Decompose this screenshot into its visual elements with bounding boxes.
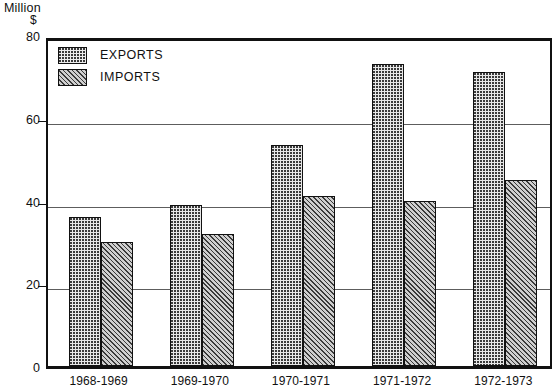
- x-axis-tick-label: 1969-1970: [171, 374, 229, 388]
- y-axis-tick-label: 80: [6, 30, 40, 44]
- bar-exports-1969-1970: [170, 205, 202, 366]
- y-axis-tick: [38, 204, 46, 205]
- x-axis-tick-label: 1972-1973: [474, 374, 532, 388]
- y-axis-tick-label: 20: [6, 278, 40, 292]
- bar-imports-1971-1972: [404, 201, 436, 367]
- bar-exports-1972-1973: [473, 72, 505, 366]
- legend-swatch-exports-icon: [58, 47, 87, 64]
- legend-label-imports: IMPORTS: [100, 70, 160, 84]
- y-axis-tick: [38, 286, 46, 287]
- x-axis-tick-label: 1968-1969: [69, 374, 127, 388]
- bar-imports-1969-1970: [202, 234, 234, 366]
- bars-layer: [48, 41, 550, 366]
- bar-imports-1968-1969: [101, 242, 133, 366]
- x-axis-tick-label: 1971-1972: [373, 374, 431, 388]
- y-axis-tick-label: 60: [6, 113, 40, 127]
- legend-item-imports: IMPORTS: [58, 66, 163, 88]
- bar-imports-1972-1973: [505, 180, 537, 366]
- bar-chart: Million $ 020406080 1968-19691969-197019…: [0, 0, 560, 392]
- legend: EXPORTS IMPORTS: [58, 44, 163, 88]
- legend-swatch-imports-icon: [58, 69, 87, 86]
- x-axis-tick-label: 1970-1971: [272, 374, 330, 388]
- bar-imports-1970-1971: [303, 196, 335, 366]
- legend-label-exports: EXPORTS: [100, 48, 163, 62]
- bar-exports-1971-1972: [372, 64, 404, 366]
- y-axis-title-line-2: $: [4, 14, 41, 27]
- legend-item-exports: EXPORTS: [58, 44, 163, 66]
- bar-exports-1970-1971: [271, 145, 303, 366]
- y-axis-tick-label: 40: [6, 196, 40, 210]
- y-axis-tick-label: 0: [6, 361, 40, 375]
- bar-exports-1968-1969: [69, 217, 101, 366]
- y-axis-tick: [38, 121, 46, 122]
- y-axis-title: Million $: [4, 2, 41, 27]
